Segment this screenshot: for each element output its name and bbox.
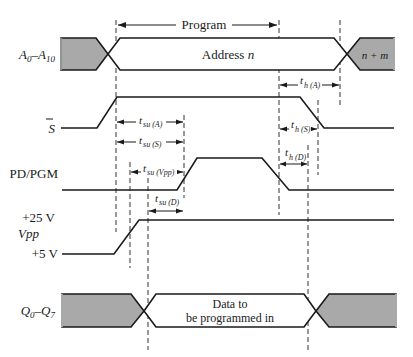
th-s-annotation: th (S): [280, 118, 317, 134]
th-d-annotation: th (D): [280, 146, 307, 167]
data-text-line1: Data to: [213, 297, 248, 311]
data-bus: Q0–Q7 Data to be programmed in: [21, 294, 396, 327]
th-d-label: th (D): [285, 146, 307, 162]
th-a-annotation: th (A): [280, 74, 339, 90]
pd-pgm-label: PD/PGM: [10, 166, 59, 181]
vpp-high-level-label: +25 V: [22, 210, 55, 225]
s-bar-signal: S: [46, 97, 394, 136]
program-label: Program: [182, 17, 227, 32]
tsu-d-label: tsu (D): [155, 192, 180, 207]
program-span: Program: [118, 17, 277, 32]
vpp-signal: +25 V Vpp +5 V: [18, 210, 394, 261]
address-bus: A0–A10 Address n n + m: [18, 38, 394, 70]
address-n-text: Address n: [202, 47, 254, 62]
s-bar-label: S: [49, 121, 56, 136]
address-next-text: n + m: [362, 49, 388, 61]
data-bus-label: Q0–Q7: [21, 303, 56, 320]
vpp-label: Vpp: [18, 226, 39, 241]
data-text-line2: be programmed in: [186, 311, 274, 325]
tsu-s-annotation: tsu (S): [117, 133, 183, 149]
tsu-d-annotation: tsu (D): [149, 192, 183, 214]
vpp-low-level-label: +5 V: [32, 246, 59, 261]
tsu-a-annotation: tsu (A): [117, 113, 183, 129]
timing-diagram: Program A0–A10 Address n n + m S tsu (A)…: [0, 0, 413, 357]
pd-pgm-signal: PD/PGM: [10, 158, 394, 190]
tsu-vpp-annotation: tsu (Vpp): [131, 162, 183, 177]
address-bus-label: A0–A10: [18, 47, 55, 64]
